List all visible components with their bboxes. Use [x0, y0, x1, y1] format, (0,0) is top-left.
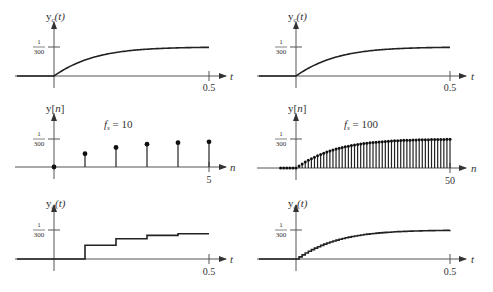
sample-dot: [319, 153, 322, 156]
panel-top-left: [15, 22, 226, 88]
x-axis-label: t: [471, 253, 475, 265]
sample-dot: [207, 139, 212, 144]
sample-dot: [439, 138, 442, 141]
y-tick-numerator: 1: [279, 221, 283, 229]
x-tick-label: 0.5: [203, 82, 216, 93]
sample-dot: [295, 167, 298, 170]
panel-top-right-labels: yc(t) 1 300 0.5 t: [275, 10, 475, 93]
sample-dot: [288, 167, 291, 170]
y-tick-numerator: 1: [279, 38, 283, 46]
sample-dot: [433, 138, 436, 141]
y-tick-denominator: 300: [276, 48, 287, 56]
sample-dot: [372, 141, 375, 144]
sample-dot: [445, 138, 448, 141]
panel-bottom-left: [15, 205, 226, 271]
sample-dot: [424, 138, 427, 141]
sample-dot: [331, 149, 334, 152]
sample-dot: [335, 148, 338, 151]
panel-top-right: [257, 22, 466, 88]
x-tick-label: 0.5: [203, 266, 216, 277]
sample-dot: [375, 141, 378, 144]
y-tick-numerator: 1: [37, 130, 41, 138]
sample-dot: [384, 140, 387, 143]
sample-dot: [402, 139, 405, 142]
y-axis-label: yd(t): [46, 197, 66, 211]
sample-dot: [313, 156, 316, 159]
y-tick-denominator: 300: [276, 231, 287, 239]
sample-dot: [399, 139, 402, 142]
sampling-rate-annotation: fs = 100: [344, 118, 379, 132]
sample-dot: [427, 138, 430, 141]
sample-dot: [356, 143, 359, 146]
y-tick-denominator: 300: [34, 140, 45, 148]
sample-dot: [396, 139, 399, 142]
sample-dot: [359, 142, 362, 145]
sample-dot: [316, 154, 319, 157]
sample-dot: [285, 167, 288, 170]
x-axis-label: t: [230, 253, 234, 265]
y-tick-numerator: 1: [37, 38, 41, 46]
sample-dot: [362, 142, 365, 145]
response-curve: [259, 230, 450, 259]
sample-dot: [381, 140, 384, 143]
sample-dot: [368, 141, 371, 144]
zoh-staircase: [17, 234, 209, 259]
x-axis-label: n: [230, 161, 236, 173]
y-tick-numerator: 1: [279, 130, 283, 138]
sample-dot: [436, 138, 439, 141]
sample-dot: [307, 159, 310, 162]
y-tick-denominator: 300: [276, 140, 287, 148]
sample-dot: [412, 139, 415, 142]
sample-dot: [350, 144, 353, 147]
y-axis-label: y[n]: [46, 102, 64, 114]
sample-dot: [328, 149, 331, 152]
panel-bottom-right: [257, 205, 466, 271]
x-axis-label: t: [230, 70, 234, 82]
sample-dot: [298, 164, 301, 167]
y-axis-label: yc(t): [46, 10, 65, 24]
sample-dot: [353, 143, 356, 146]
sample-dot: [415, 138, 418, 141]
sample-dot: [430, 138, 433, 141]
x-tick-label: 0.5: [444, 266, 457, 277]
sample-dot: [341, 146, 344, 149]
sample-dot: [114, 145, 119, 150]
x-tick-label: 0.5: [444, 82, 457, 93]
sample-dot: [387, 140, 390, 143]
x-tick-label: 50: [445, 175, 455, 186]
sample-dot: [322, 152, 325, 155]
sample-dot: [344, 145, 347, 148]
y-tick-numerator: 1: [37, 221, 41, 229]
x-tick-label: 5: [207, 174, 212, 185]
sample-dot: [282, 167, 285, 170]
y-tick-denominator: 300: [34, 231, 45, 239]
sample-dot: [378, 140, 381, 143]
y-axis-label: yc(t): [288, 10, 307, 24]
sample-dot: [405, 139, 408, 142]
sample-dot: [291, 167, 294, 170]
sample-dot: [408, 139, 411, 142]
sample-dot: [365, 142, 368, 145]
sample-dot: [421, 138, 424, 141]
y-axis-label: yd(t): [288, 197, 308, 211]
sample-dot: [83, 151, 88, 156]
sample-dot: [347, 145, 350, 148]
sample-dot: [442, 138, 445, 141]
sample-dot: [418, 138, 421, 141]
sample-dot: [390, 139, 393, 142]
y-axis-label: y[n]: [288, 102, 306, 114]
panel-top-left-labels: yc(t) 1 300 0.5 t: [33, 10, 234, 93]
sample-dot: [310, 157, 313, 160]
sampling-rate-annotation: fs = 10: [104, 118, 133, 132]
sample-dot: [449, 138, 452, 141]
sample-dot: [325, 151, 328, 154]
panel-middle-left-labels: y[n] fs = 10 1 300 5 n: [33, 102, 236, 185]
sample-dot: [279, 167, 282, 170]
response-curve: [17, 47, 209, 76]
sample-dot: [393, 139, 396, 142]
x-axis-label: n: [471, 162, 477, 174]
response-curve: [259, 47, 450, 76]
sample-dot: [301, 162, 304, 165]
sample-dot: [304, 161, 307, 164]
sample-dot: [145, 142, 150, 147]
